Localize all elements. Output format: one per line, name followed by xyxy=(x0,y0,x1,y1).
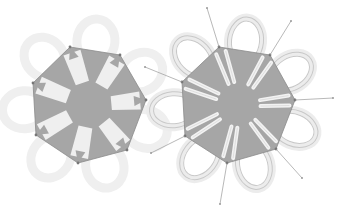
ray-end-dot xyxy=(206,7,208,9)
ray-end-dot xyxy=(290,20,292,22)
vertex-dot xyxy=(32,82,35,85)
ray-end-dot xyxy=(150,152,152,154)
vertex-dot xyxy=(119,54,122,57)
vertex-dot xyxy=(69,46,72,49)
vertex-dot xyxy=(35,134,38,137)
vertex-dot xyxy=(145,99,148,102)
ray-end-dot xyxy=(219,203,221,205)
vertex-dot xyxy=(126,149,129,152)
ray-line xyxy=(220,163,227,204)
right-heptagon-figure xyxy=(144,7,334,205)
diagram-canvas xyxy=(0,0,351,218)
ray-end-dot xyxy=(332,97,334,99)
vertex-dot xyxy=(77,162,80,165)
ray-line xyxy=(270,21,291,55)
ray-line xyxy=(207,8,219,47)
ray-line xyxy=(276,149,302,178)
ray-end-dot xyxy=(144,66,146,68)
ray-end-dot xyxy=(301,177,303,179)
ray-line xyxy=(295,98,333,100)
